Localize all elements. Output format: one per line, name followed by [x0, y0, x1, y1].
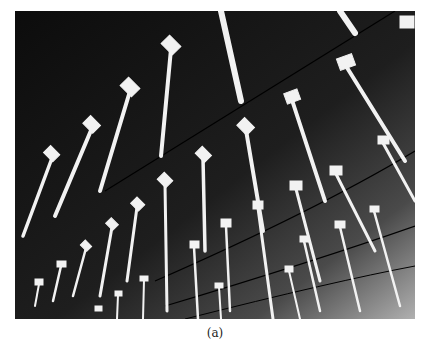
ceiling-photo	[15, 11, 415, 319]
figure-caption: (a)	[0, 326, 430, 340]
rods-illustration	[15, 11, 415, 319]
